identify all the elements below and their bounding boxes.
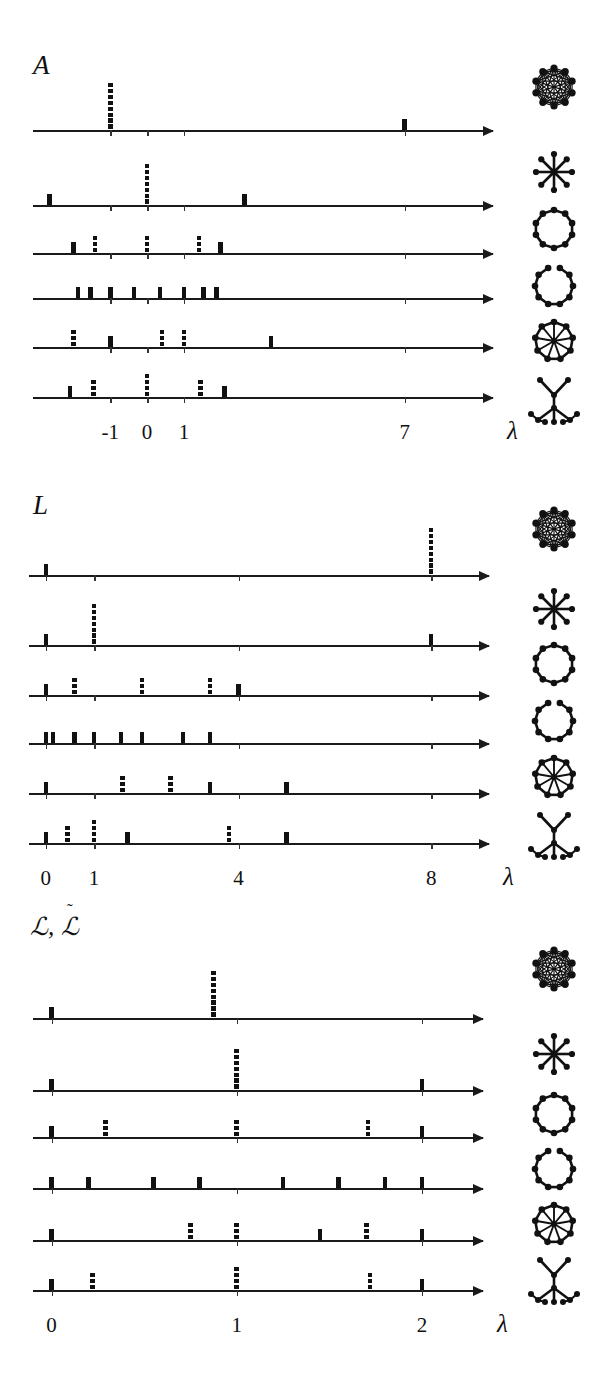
- axis-tick: [52, 1188, 54, 1194]
- eigenvalue-bar: [198, 380, 203, 397]
- cycle-graph-icon: [525, 200, 583, 258]
- eigenvalue-axis-row: [29, 575, 489, 576]
- tree-graph-icon: [525, 370, 583, 428]
- axis-arrow-head: [479, 739, 490, 749]
- eigenvalue-bar: [182, 330, 187, 347]
- tree-graph-icon: [525, 1250, 583, 1308]
- eigenvalue-bar: [140, 678, 145, 695]
- eigenvalue-bar: [49, 1229, 54, 1241]
- axis-tick-label: 1: [89, 868, 100, 889]
- axis-arrow-head: [483, 294, 494, 304]
- star-graph-icon: [525, 1025, 583, 1083]
- axis-tick: [405, 298, 407, 304]
- axis-tick: [239, 575, 241, 581]
- axis-tick: [94, 645, 96, 651]
- wheel-graph-icon: [525, 1195, 583, 1253]
- eigenvalue-axis-row: [33, 397, 493, 398]
- eigenvalue-bar: [234, 1120, 239, 1137]
- path-graph-icon: [525, 1140, 583, 1198]
- eigenvalue-axis-row: [29, 645, 489, 646]
- axis-tick: [431, 743, 433, 749]
- axis-tick: [184, 397, 186, 403]
- axis-tick: [46, 843, 48, 849]
- eigenvalue-bar: [429, 634, 434, 646]
- axis-line: [33, 397, 493, 399]
- script-l-symbol: ℒ: [30, 912, 48, 941]
- axis-line: [29, 575, 489, 577]
- eigenvalue-bar: [49, 1007, 54, 1019]
- eigenvalue-bar: [181, 732, 186, 744]
- eigenvalue-bar: [234, 1049, 239, 1090]
- eigenvalue-axis-row: [33, 1240, 483, 1241]
- axis-tick: [422, 1090, 424, 1096]
- cycle-graph-icon: [525, 635, 583, 693]
- axis-tick: [184, 298, 186, 304]
- eigenvalue-bar: [208, 678, 213, 695]
- eigenvalue-bar: [92, 604, 97, 645]
- wheel-graph-icon: [525, 312, 583, 370]
- eigenvalue-bar: [420, 1177, 425, 1189]
- eigenvalue-bar: [71, 242, 76, 254]
- axis-tick: [52, 1090, 54, 1096]
- axis-tick: [147, 205, 149, 211]
- eigenvalue-axis-row: [29, 793, 489, 794]
- axis-tick: [110, 205, 112, 211]
- axis-arrow-head: [479, 641, 490, 651]
- axis-line: [29, 645, 489, 647]
- axis-arrow-head: [473, 1184, 484, 1194]
- eigenvalue-bar: [242, 194, 247, 206]
- axis-arrow-head: [483, 343, 494, 353]
- panel-label-A: A: [33, 52, 50, 79]
- eigenvalue-bar: [65, 826, 70, 843]
- axis-tick: [422, 1290, 424, 1296]
- axis-line: [29, 695, 489, 697]
- eigenvalue-bar: [160, 330, 165, 347]
- axis-tick: [184, 130, 186, 136]
- panel-laplacian: L 0148λ: [0, 480, 603, 900]
- eigenvalue-bar: [168, 776, 173, 793]
- eigenvalue-bar: [420, 1279, 425, 1291]
- axis-arrow-head: [483, 201, 494, 211]
- eigenvalue-bar: [92, 820, 97, 843]
- axis-tick: [52, 1240, 54, 1246]
- eigenvalue-bar: [49, 1177, 54, 1189]
- axis-tick: [46, 695, 48, 701]
- axis-tick: [405, 253, 407, 259]
- axis-arrow-head: [483, 249, 494, 259]
- eigenvalue-bar: [383, 1177, 388, 1189]
- eigenvalue-bar: [429, 528, 434, 575]
- eigenvalue-bar: [214, 287, 219, 299]
- axis-line: [33, 1137, 483, 1139]
- axis-tick: [94, 843, 96, 849]
- axis-tick: [237, 1137, 239, 1143]
- eigenvalue-axis-row: [33, 1290, 483, 1291]
- axis-tick-label: 1: [179, 422, 190, 443]
- axis-arrow-head: [473, 1236, 484, 1246]
- eigenvalue-bar: [119, 732, 124, 744]
- path-graph-icon: [525, 692, 583, 750]
- axis-tick: [237, 1290, 239, 1296]
- eigenvalue-axis-row: [33, 253, 493, 254]
- axis-tick: [110, 298, 112, 304]
- eigenvalue-bar: [132, 287, 137, 299]
- axis-tick: [147, 298, 149, 304]
- axis-tick: [184, 347, 186, 353]
- axis-tick: [237, 1188, 239, 1194]
- eigenvalue-bar: [49, 1279, 54, 1291]
- eigenvalue-bar: [120, 776, 125, 793]
- axis-line: [29, 843, 489, 845]
- axis-tick: [184, 205, 186, 211]
- eigenvalue-bar: [158, 287, 163, 299]
- eigenvalue-bar: [44, 782, 49, 794]
- eigenvalue-bar: [151, 1177, 156, 1189]
- axis-line: [33, 1018, 483, 1020]
- axis-tick: [237, 1240, 239, 1246]
- axis-tick: [237, 1090, 239, 1096]
- eigenvalue-bar: [269, 336, 274, 348]
- eigenvalue-axis-row: [33, 205, 493, 206]
- eigenvalue-bar: [284, 782, 289, 794]
- axis-tick: [147, 397, 149, 403]
- eigenvalue-bar: [108, 83, 113, 130]
- eigenvalue-bar: [72, 732, 77, 744]
- eigenvalue-axis-row: [33, 1137, 483, 1138]
